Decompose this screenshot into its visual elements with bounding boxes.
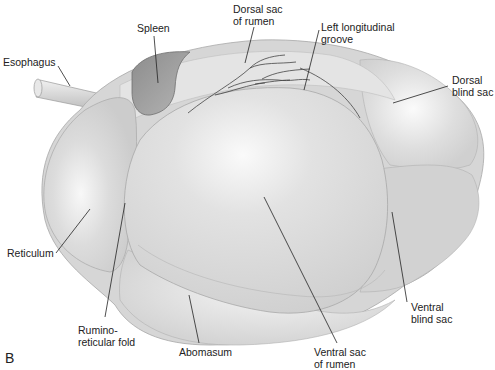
label-esophagus: Esophagus xyxy=(3,56,56,68)
panel-letter: B xyxy=(5,350,14,366)
label-rumino-reticular-fold: Rumino- reticular fold xyxy=(78,324,135,348)
label-left-longitudinal-groove: Left longitudinal groove xyxy=(321,21,395,45)
label-ventral-sac-rumen: Ventral sac of rumen xyxy=(314,346,366,370)
label-dorsal-blind-sac: Dorsal blind sac xyxy=(452,74,493,98)
label-ventral-blind-sac: Ventral blind sac xyxy=(411,301,452,325)
label-dorsal-sac-rumen: Dorsal sac of rumen xyxy=(233,3,283,27)
label-spleen: Spleen xyxy=(137,22,170,34)
ruminant-stomach-diagram: Esophagus Spleen Dorsal sac of rumen Lef… xyxy=(0,0,495,370)
label-abomasum: Abomasum xyxy=(179,346,232,358)
label-reticulum: Reticulum xyxy=(7,247,54,259)
